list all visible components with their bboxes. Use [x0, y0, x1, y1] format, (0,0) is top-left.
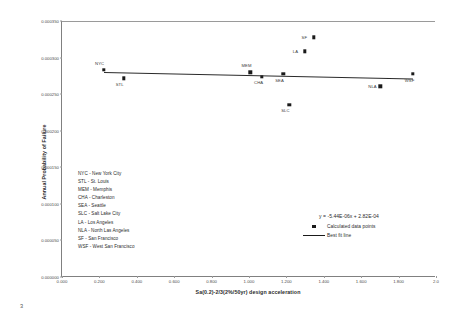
data-point-label-nla: NLA [368, 84, 376, 89]
city-abbreviation-key: NYC - New York CitySTL - St. LouisMEM - … [78, 170, 135, 251]
y-tick-mark [60, 130, 62, 131]
y-tick-mark [60, 57, 62, 58]
city-key-item: LA - Los Angeles [78, 219, 135, 227]
data-point-mem [249, 70, 252, 73]
best-fit-line [104, 72, 413, 80]
legend-item-data-points: Calculated data points [271, 224, 427, 229]
city-key-item: STL - St. Louis [78, 178, 135, 186]
y-tick-label: 0.000200 [41, 128, 62, 133]
x-tick-mark [399, 276, 400, 278]
data-point-slc [288, 103, 291, 106]
x-tick-mark [174, 276, 175, 278]
legend-item-best-fit: Best fit line [271, 233, 427, 238]
y-tick-mark [60, 203, 62, 204]
data-point-nyc [102, 68, 105, 71]
y-tick-mark [60, 21, 62, 22]
x-axis-title: Sa(0.2)-2/3(2%/50yr) design acceleration [61, 289, 435, 295]
chart-page: Annual Probability of Failure 0.0000000.… [0, 0, 454, 323]
city-key-item: WSF - West San Francisco [78, 243, 135, 251]
data-point-la [303, 50, 306, 53]
x-tick-mark [324, 276, 325, 278]
x-tick-mark [99, 276, 100, 278]
plot-top-border [62, 21, 435, 22]
fit-line-equation: y = -5.44E-06x + 2.82E-04 [271, 213, 427, 219]
data-point-nla [379, 85, 382, 88]
city-key-item: SF - San Francisco [78, 235, 135, 243]
y-tick-label: 0.000300 [41, 55, 62, 60]
x-tick-mark [249, 276, 250, 278]
data-point-label-cha: CHA [254, 80, 263, 85]
data-point-label-stl: STL [116, 82, 124, 87]
data-point-label-la: LA [293, 49, 298, 54]
x-tick-mark [137, 276, 138, 278]
data-point-label-slc: SLC [281, 108, 289, 113]
y-tick-mark [60, 240, 62, 241]
legend-label-best-fit: Best fit line [327, 233, 351, 238]
page-number: 3 [20, 303, 23, 309]
chart-legend: y = -5.44E-06x + 2.82E-04 Calculated dat… [271, 213, 427, 238]
legend-label-data-points: Calculated data points [327, 224, 376, 229]
y-tick-label: 0.000350 [41, 19, 62, 24]
y-tick-label: 0.000100 [41, 201, 62, 206]
x-tick-mark [436, 276, 437, 278]
city-key-item: SEA - Seattle [78, 202, 135, 210]
data-point-label-nyc: NYC [95, 61, 104, 66]
legend-line-swatch [301, 235, 327, 236]
data-point-label-mem: MEM [241, 63, 251, 68]
x-tick-mark [62, 276, 63, 278]
x-tick-mark [212, 276, 213, 278]
city-key-item: CHA - Charleston [78, 194, 135, 202]
data-point-wsf [411, 72, 414, 75]
x-tick-mark [361, 276, 362, 278]
city-key-item: NLA - North Las Angeles [78, 227, 135, 235]
city-key-item: MEM - Memphis [78, 186, 135, 194]
y-tick-label: 0.000150 [41, 165, 62, 170]
legend-square-swatch [301, 225, 327, 228]
data-point-sf [312, 36, 315, 39]
data-point-label-sf: SF [302, 35, 308, 40]
city-key-item: NYC - New York City [78, 170, 135, 178]
y-tick-label: 0.000250 [41, 92, 62, 97]
data-point-label-sea: SEA [275, 78, 284, 83]
y-tick-label: 0.000050 [41, 238, 62, 243]
x-tick-mark [286, 276, 287, 278]
y-tick-mark [60, 167, 62, 168]
data-point-stl [122, 77, 125, 80]
city-key-item: SLC - Salt Lake City [78, 210, 135, 218]
y-axis-title: Annual Probability of Failure [41, 124, 47, 199]
y-tick-mark [60, 94, 62, 95]
